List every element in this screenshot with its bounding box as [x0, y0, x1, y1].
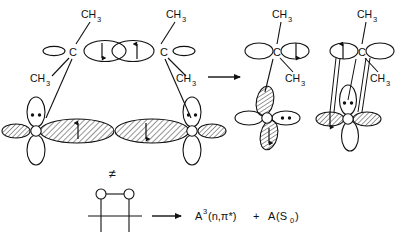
- svg-text:3: 3: [97, 15, 101, 24]
- equation-plus-sign: +: [253, 210, 259, 222]
- svg-text:CH: CH: [285, 72, 300, 84]
- right-oxygen-lone-pair-dot-2: [194, 113, 197, 116]
- dioxetane-oxygen-right: [124, 189, 134, 199]
- right-oxygen-outer-hatched-lobe: [198, 124, 226, 138]
- svg-text:CH: CH: [272, 8, 287, 20]
- svg-text:3: 3: [386, 79, 390, 88]
- sigma-lobe-left-hatched: [40, 119, 114, 143]
- svg-text:CH: CH: [370, 72, 385, 84]
- product-triplet-multiplicity: 3: [203, 207, 207, 216]
- left-oxygen-nucleus: [31, 126, 41, 136]
- svg-text:CH: CH: [357, 8, 372, 20]
- svg-text:3: 3: [192, 79, 196, 88]
- svg-text:3: 3: [301, 79, 305, 88]
- ground-oxygen-lone-pair-dot-2: [350, 101, 353, 104]
- triplet-oxygen-lone-pair-dot-1: [281, 116, 284, 119]
- right-oxygen-lone-pair-dot-1: [187, 113, 190, 116]
- triplet-oxygen-nucleus: [262, 113, 272, 123]
- ground-carbon-atom-label: C: [358, 46, 366, 58]
- left-oxygen-outer-hatched-lobe: [2, 124, 30, 138]
- right-carbon-atom-label: C: [160, 46, 168, 58]
- product-ground-state-sub: 0: [290, 216, 294, 225]
- product-triplet-state: (n,π*): [208, 210, 236, 222]
- triplet-oxygen-lone-pair-dot-2: [288, 116, 291, 119]
- ground-oxygen-right-hatched-lobe: [353, 112, 381, 126]
- left-oxygen-lone-pair-dot-1: [31, 113, 34, 116]
- product-ground-state-open: (S: [276, 210, 287, 222]
- left-carbon-atom-label: C: [69, 46, 77, 58]
- svg-text:3: 3: [373, 15, 377, 24]
- right-oxygen-nucleus: [187, 126, 197, 136]
- svg-text:CH: CH: [81, 8, 96, 20]
- svg-text:3: 3: [288, 15, 292, 24]
- svg-text:CH: CH: [30, 72, 45, 84]
- not-equal-symbol: ≠: [108, 166, 115, 181]
- left-oxygen-lone-pair-dot-2: [38, 113, 41, 116]
- product-ground-state-close: ): [295, 210, 299, 222]
- svg-text:CH: CH: [166, 8, 181, 20]
- ground-oxygen-lone-pair-dot-1: [343, 101, 346, 104]
- dioxetane-oxygen-left: [96, 189, 106, 199]
- product-ground-symbol: A: [268, 210, 276, 222]
- orbital-correlation-figure: C CH 3 CH 3: [0, 0, 409, 244]
- triplet-carbon-atom-label: C: [273, 46, 281, 58]
- svg-text:3: 3: [46, 79, 50, 88]
- figure-canvas: C CH 3 CH 3: [0, 0, 409, 244]
- product-triplet-symbol: A: [195, 210, 203, 222]
- svg-text:CH: CH: [176, 72, 191, 84]
- sigma-lobe-right-hatched: [115, 119, 189, 143]
- ground-oxygen-nucleus: [343, 114, 353, 124]
- svg-text:3: 3: [182, 15, 186, 24]
